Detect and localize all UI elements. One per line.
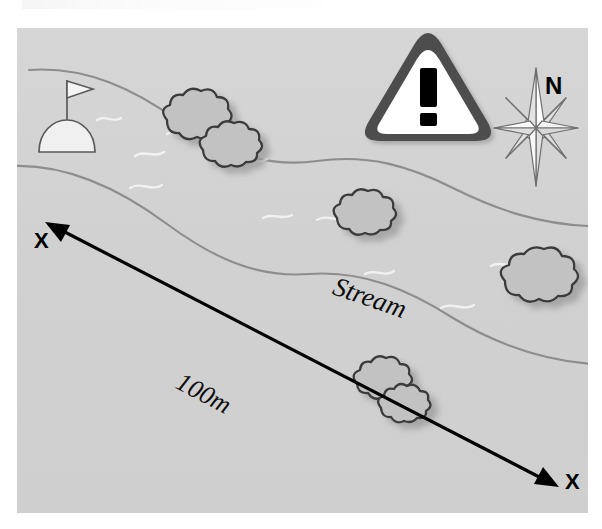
scan-artifact-top-text: [22, 0, 322, 9]
water-ripple-icon: [263, 215, 292, 218]
map-drawing: [17, 28, 588, 513]
page-root: Stream 100m X X N: [0, 0, 602, 529]
shrub-cluster-right: [501, 247, 578, 301]
map-panel: Stream 100m X X N: [17, 28, 588, 513]
shrub-icon: [501, 247, 578, 301]
warning-exclamation-bar: [420, 68, 437, 107]
warning-exclamation-dot: [420, 113, 437, 126]
